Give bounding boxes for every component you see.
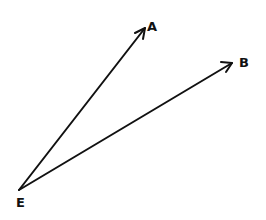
label-a: A — [147, 20, 157, 33]
label-e: E — [16, 196, 25, 209]
label-b: B — [239, 56, 249, 69]
diagram-svg — [0, 0, 266, 220]
vector-diagram: A B E — [0, 0, 266, 220]
vector-eb-line — [19, 63, 232, 190]
vector-ea-line — [19, 28, 145, 190]
